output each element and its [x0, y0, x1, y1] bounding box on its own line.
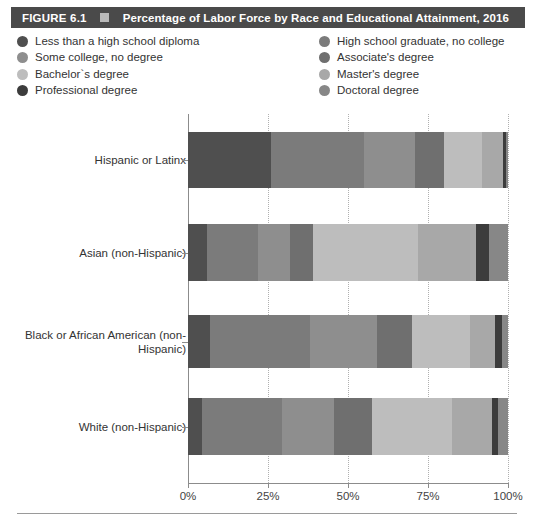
bar-segment[interactable]	[489, 224, 508, 281]
x-axis-tick	[508, 483, 509, 488]
figure-title: Percentage of Labor Force by Race and Ed…	[123, 12, 509, 24]
bar-segment[interactable]	[377, 315, 412, 368]
bar-segment[interactable]	[482, 132, 503, 188]
square-marker-icon	[100, 13, 109, 22]
legend-item-label: Professional degree	[35, 85, 137, 97]
stacked-bar[interactable]	[188, 315, 508, 368]
x-axis-tick-label: 0%	[180, 490, 197, 502]
bar-row: Asian (non-Hispanic)	[0, 224, 534, 281]
chart-legend: Less than a high school diploma Some col…	[11, 33, 525, 101]
bar-segment[interactable]	[258, 224, 290, 281]
bar-segment[interactable]	[506, 132, 508, 188]
x-axis-tick-label: 50%	[336, 490, 359, 502]
bar-segment[interactable]	[202, 398, 282, 455]
legend-dot-icon	[17, 52, 28, 63]
footer-rule	[17, 513, 517, 514]
bar-row: Black or African American (non-Hispanic)	[0, 315, 534, 368]
legend-item: Less than a high school diploma	[17, 33, 307, 50]
legend-item: Some college, no degree	[17, 50, 307, 67]
stacked-bar[interactable]	[188, 224, 508, 281]
bar-segment[interactable]	[188, 315, 210, 368]
category-label: Asian (non-Hispanic)	[6, 246, 186, 260]
bar-segment[interactable]	[188, 398, 202, 455]
x-axis-tick	[428, 483, 429, 488]
bar-segment[interactable]	[364, 132, 415, 188]
legend-item: Doctoral degree	[319, 83, 534, 100]
legend-dot-icon	[17, 85, 28, 96]
bar-segment[interactable]	[498, 398, 508, 455]
bar-segment[interactable]	[476, 224, 489, 281]
bar-segment[interactable]	[444, 132, 482, 188]
bar-segment[interactable]	[210, 315, 309, 368]
stacked-bar[interactable]	[188, 398, 508, 455]
bar-segment[interactable]	[313, 224, 419, 281]
stacked-bar[interactable]	[188, 132, 508, 188]
bar-segment[interactable]	[418, 224, 476, 281]
bar-row: White (non-Hispanic)	[0, 398, 534, 455]
bar-segment[interactable]	[207, 224, 258, 281]
legend-dot-icon	[319, 69, 330, 80]
bar-segment[interactable]	[290, 224, 312, 281]
x-axis-tick-label: 25%	[256, 490, 279, 502]
figure-header: FIGURE 6.1 Percentage of Labor Force by …	[11, 7, 525, 28]
bar-segment[interactable]	[271, 132, 364, 188]
legend-dot-icon	[319, 85, 330, 96]
bar-segment[interactable]	[470, 315, 496, 368]
bar-segment[interactable]	[415, 132, 444, 188]
legend-item-label: Master's degree	[337, 69, 419, 81]
category-label: Hispanic or Latinx	[6, 153, 186, 167]
figure-number: FIGURE 6.1	[22, 12, 87, 24]
legend-column-left: Less than a high school diploma Some col…	[17, 33, 307, 99]
legend-column-right: High school graduate, no college Associa…	[319, 33, 534, 99]
legend-item-label: Some college, no degree	[35, 52, 163, 64]
bar-segment[interactable]	[188, 224, 207, 281]
x-axis-tick	[188, 483, 189, 488]
category-label: White (non-Hispanic)	[6, 420, 186, 434]
legend-item-label: Bachelor`s degree	[35, 69, 129, 81]
x-axis-tick-label: 100%	[493, 490, 522, 502]
legend-item: Associate's degree	[319, 50, 534, 67]
category-label: Black or African American (non-Hispanic)	[6, 328, 186, 356]
legend-dot-icon	[17, 36, 28, 47]
bar-segment[interactable]	[334, 398, 372, 455]
x-axis-tick	[268, 483, 269, 488]
legend-item-label: Associate's degree	[337, 52, 434, 64]
bar-segment[interactable]	[282, 398, 333, 455]
bar-segment[interactable]	[188, 132, 271, 188]
bar-segment[interactable]	[502, 315, 508, 368]
bar-segment[interactable]	[372, 398, 452, 455]
bar-segment[interactable]	[310, 315, 377, 368]
legend-item: Professional degree	[17, 83, 307, 100]
legend-item: High school graduate, no college	[319, 33, 534, 50]
legend-item-label: High school graduate, no college	[337, 36, 505, 48]
bar-segment[interactable]	[452, 398, 492, 455]
bar-segment[interactable]	[412, 315, 470, 368]
legend-dot-icon	[17, 69, 28, 80]
x-axis-tick-label: 75%	[416, 490, 439, 502]
legend-item: Bachelor`s degree	[17, 66, 307, 83]
legend-dot-icon	[319, 52, 330, 63]
legend-item-label: Doctoral degree	[337, 85, 419, 97]
chart-plot-area: Hispanic or LatinxAsian (non-Hispanic)Bl…	[0, 104, 534, 504]
legend-item-label: Less than a high school diploma	[35, 36, 199, 48]
legend-item: Master's degree	[319, 66, 534, 83]
x-axis-tick	[348, 483, 349, 488]
bar-row: Hispanic or Latinx	[0, 132, 534, 188]
legend-dot-icon	[319, 36, 330, 47]
